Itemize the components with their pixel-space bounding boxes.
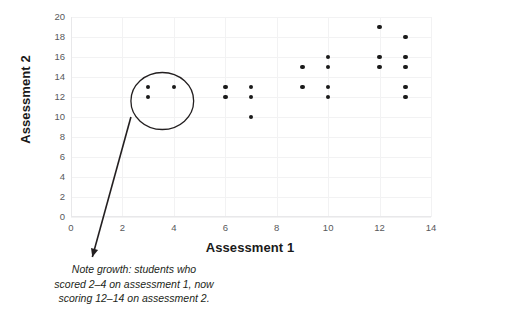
gridline-horizontal [71, 77, 431, 78]
annotation-line-1: Note growth: students who [72, 263, 196, 275]
y-tick-label: 20 [39, 11, 65, 23]
y-axis-title: Assessment 2 [18, 20, 33, 180]
x-tick-label: 2 [109, 222, 135, 234]
data-point [326, 55, 331, 60]
data-point [326, 95, 331, 100]
gridline-vertical [431, 17, 432, 217]
gridline-horizontal [71, 217, 431, 218]
gridline-horizontal [71, 177, 431, 178]
data-point [377, 55, 382, 60]
x-tick-label: 14 [418, 222, 444, 234]
annotation-line-3: scoring 12–14 on assessment 2. [58, 292, 209, 304]
data-point [326, 65, 331, 70]
data-point [377, 65, 382, 70]
x-axis-title: Assessment 1 [70, 240, 430, 255]
data-point [403, 55, 408, 60]
x-axis-line [71, 216, 431, 217]
y-tick-label: 14 [39, 71, 65, 83]
data-point [223, 95, 228, 100]
data-point [300, 85, 305, 90]
gridline-vertical [328, 17, 329, 217]
plot-area [71, 17, 431, 217]
x-tick-label: 0 [58, 222, 84, 234]
y-tick-label: 4 [39, 171, 65, 183]
y-axis-line [71, 17, 72, 217]
x-tick-label: 12 [367, 222, 393, 234]
y-tick-label: 10 [39, 111, 65, 123]
data-point [146, 85, 151, 90]
y-tick-label: 6 [39, 151, 65, 163]
gridline-vertical [277, 17, 278, 217]
data-point [403, 95, 408, 100]
x-tick-label: 6 [212, 222, 238, 234]
data-point [146, 95, 151, 100]
data-point [377, 25, 382, 30]
y-tick-label: 12 [39, 91, 65, 103]
gridline-horizontal [71, 157, 431, 158]
x-tick-label: 8 [264, 222, 290, 234]
data-point [249, 85, 254, 90]
data-point [249, 115, 254, 120]
data-point [403, 35, 408, 40]
gridline-horizontal [71, 197, 431, 198]
data-point [326, 85, 331, 90]
data-point [300, 65, 305, 70]
gridline-horizontal [71, 137, 431, 138]
data-point [172, 85, 177, 90]
gridline-vertical [380, 17, 381, 217]
gridline-vertical [225, 17, 226, 217]
gridline-vertical [174, 17, 175, 217]
gridline-horizontal [71, 17, 431, 18]
scatter-chart: Assessment 2 Assessment 1 02468101214161… [0, 0, 528, 315]
data-point [403, 65, 408, 70]
y-tick-label: 2 [39, 191, 65, 203]
gridline-horizontal [71, 37, 431, 38]
x-tick-label: 10 [315, 222, 341, 234]
annotation-text: Note growth: students who scored 2–4 on … [14, 262, 254, 306]
y-tick-label: 8 [39, 131, 65, 143]
data-point [403, 85, 408, 90]
gridline-vertical [122, 17, 123, 217]
x-tick-label: 4 [161, 222, 187, 234]
data-point [249, 95, 254, 100]
y-tick-label: 16 [39, 51, 65, 63]
data-point [223, 85, 228, 90]
annotation-line-2: scored 2–4 on assessment 1, now [54, 278, 213, 290]
y-tick-label: 18 [39, 31, 65, 43]
